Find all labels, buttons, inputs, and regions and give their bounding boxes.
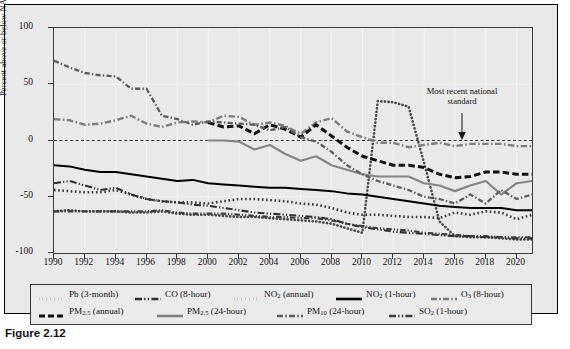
legend-item[interactable]: PM2.5 (annual): [39, 307, 123, 317]
legend-item[interactable]: NO2 (1-hour): [336, 290, 416, 300]
legend-line-icon: [39, 307, 65, 317]
legend-item-label: PM2.5 (annual): [69, 307, 123, 317]
annotation-line-1: Most recent national: [398, 86, 526, 96]
legend-item[interactable]: NO2 (annual): [234, 290, 313, 300]
y-tick-label: -50: [0, 191, 33, 201]
x-tick-mark: [392, 254, 393, 259]
legend-line-icon: [389, 307, 415, 317]
legend-line-icon: [135, 290, 161, 300]
x-tick-mark: [331, 254, 332, 259]
x-tick-mark: [238, 254, 239, 259]
x-tick-mark: [454, 254, 455, 259]
legend-swatch-dashed-thick: [39, 311, 65, 321]
legend-item-label: NO2 (1-hour): [366, 290, 416, 300]
legend-item[interactable]: Pb (3-month): [39, 290, 118, 300]
legend-row-1: Pb (3-month)CO (8-hour)NO2 (annual)NO2 (…: [39, 289, 525, 306]
legend-item-label: O3 (8-hour): [461, 290, 504, 300]
legend-item[interactable]: PM10 (24-hour): [277, 307, 364, 317]
legend-subscript: 2: [379, 292, 382, 299]
legend-subscript: 10: [320, 309, 327, 316]
legend-item-label: Pb (3-month): [69, 290, 118, 299]
legend-item[interactable]: O3 (8-hour): [431, 290, 504, 300]
legend-line-icon: [336, 290, 362, 300]
legend-line-icon: [431, 290, 457, 300]
legend-swatch-dash-dot: [431, 294, 457, 304]
legend-swatch-dash-dot: [277, 311, 303, 321]
x-tick-mark: [361, 254, 362, 259]
legend-line-icon: [157, 307, 183, 317]
y-tick-label: 100: [0, 22, 33, 32]
legend-item[interactable]: CO (8-hour): [135, 290, 211, 300]
legend-item-label: SO2 (1-hour): [419, 307, 467, 317]
annotation-most-recent-standard: Most recent national standard: [398, 86, 526, 107]
legend-item-label: NO2 (annual): [264, 290, 313, 300]
figure-caption: Figure 2.12: [5, 327, 66, 339]
series-line: [54, 165, 532, 210]
y-tick-label: 0: [0, 135, 33, 145]
x-tick-mark: [485, 254, 486, 259]
x-tick-mark: [176, 254, 177, 259]
legend-swatch-dotted-square: [234, 294, 260, 304]
x-tick-mark: [115, 254, 116, 259]
legend-subscript: 3: [468, 292, 471, 299]
legend-item-label: CO (8-hour): [165, 290, 211, 299]
x-tick-mark: [207, 254, 208, 259]
legend-subscript: 2.5: [82, 309, 90, 316]
legend-subscript: 2.5: [200, 309, 208, 316]
x-tick-mark: [516, 254, 517, 259]
legend-row-2: PM2.5 (annual)PM2.5 (24-hour)PM10 (24-ho…: [39, 306, 525, 323]
legend-swatch-dotted-square: [39, 294, 65, 304]
x-tick-mark: [300, 254, 301, 259]
legend-line-icon: [234, 290, 260, 300]
x-tick-label: 2020: [496, 258, 536, 268]
legend-subscript: 2: [277, 292, 280, 299]
x-tick-mark: [269, 254, 270, 259]
legend-line-icon: [277, 307, 303, 317]
legend-swatch-solid: [336, 294, 362, 304]
legend-line-icon: [39, 290, 65, 300]
x-tick-mark: [53, 254, 54, 259]
legend-item[interactable]: SO2 (1-hour): [389, 307, 467, 317]
legend-item[interactable]: PM2.5 (24-hour): [157, 307, 246, 317]
chart-legend: Pb (3-month)CO (8-hour)NO2 (annual)NO2 (…: [30, 284, 532, 325]
legend-swatch-dash-dot-dot: [389, 311, 415, 321]
legend-swatch-dash-dot-dot: [135, 294, 161, 304]
x-tick-mark: [423, 254, 424, 259]
legend-swatch-solid-gray: [157, 311, 183, 321]
annotation-arrow-icon: [455, 113, 469, 141]
legend-item-label: PM2.5 (24-hour): [187, 307, 246, 317]
legend-item-label: PM10 (24-hour): [307, 307, 364, 317]
figure-container: Percent above or below NAAQS (%) 100500-…: [0, 0, 570, 349]
x-tick-mark: [84, 254, 85, 259]
legend-subscript: 2: [431, 309, 434, 316]
annotation-line-2: standard: [398, 96, 526, 106]
y-tick-label: 50: [0, 78, 33, 88]
y-tick-label: -100: [0, 247, 33, 257]
x-tick-mark: [146, 254, 147, 259]
